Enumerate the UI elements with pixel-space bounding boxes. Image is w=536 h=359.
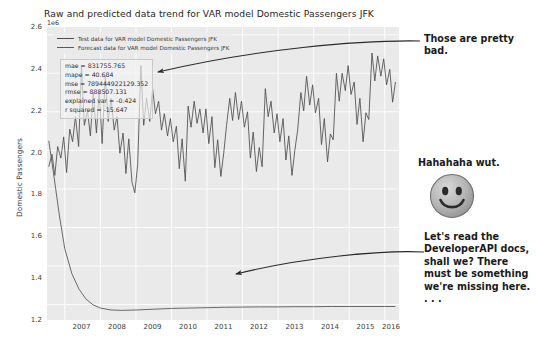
y-tick-2.4: 2.4 xyxy=(31,65,42,73)
annotation-those-are-pretty-bad: Those are pretty bad. xyxy=(424,33,534,58)
x-tick-2012: 2012 xyxy=(250,323,268,331)
chart-legend: Test data for VAR model Domestic Passeng… xyxy=(54,32,232,54)
y-tick-2.6: 2.6 xyxy=(31,23,42,31)
x-tick-2014: 2014 xyxy=(321,323,339,331)
matplotlib-figure: Raw and predicted data trend for VAR mod… xyxy=(0,0,418,359)
y-tick-1.8: 1.8 xyxy=(31,190,42,198)
legend-item-test: Test data for VAR model Domestic Passeng… xyxy=(57,34,229,43)
metric-mae: mae = 831755.765 xyxy=(65,62,148,71)
metric-rmse: rmse = 888507.131 xyxy=(65,88,148,97)
x-tick-2009: 2009 xyxy=(144,323,162,331)
legend-swatch-test xyxy=(57,38,74,39)
metrics-textbox: mae = 831755.765 mape = 40.684 mse = 789… xyxy=(60,59,153,119)
metric-mape: mape = 40.684 xyxy=(65,71,148,80)
x-tick-2007: 2007 xyxy=(73,323,91,331)
metric-explained-var: explained var = -0.424 xyxy=(65,97,148,106)
x-tick-2010: 2010 xyxy=(179,323,197,331)
x-tick-2016: 2016 xyxy=(382,323,400,331)
y-axis-offset-text: 1e6 xyxy=(47,19,59,27)
y-axis-label: Domestic Passengers xyxy=(15,78,24,278)
annotation-hahahaha-wut: Hahahaha wut. xyxy=(418,157,534,169)
y-tick-1.4: 1.4 xyxy=(31,274,42,282)
metric-mse: mse = 789444922129.352 xyxy=(65,80,148,89)
y-tick-1.2: 1.2 xyxy=(31,316,42,324)
y-tick-2.0: 2.0 xyxy=(31,149,42,157)
chart-title: Raw and predicted data trend for VAR mod… xyxy=(0,8,418,19)
smiley-face-icon xyxy=(428,172,476,220)
legend-label-test: Test data for VAR model Domestic Passeng… xyxy=(78,36,217,42)
x-tick-2011: 2011 xyxy=(215,323,233,331)
y-tick-1.6: 1.6 xyxy=(31,232,42,240)
plot-area: Test data for VAR model Domestic Passeng… xyxy=(47,27,399,320)
y-tick-2.2: 2.2 xyxy=(31,107,42,115)
legend-item-forecast: Forecast data for VAR model Domestic Pas… xyxy=(57,43,229,52)
legend-label-forecast: Forecast data for VAR model Domestic Pas… xyxy=(78,45,229,51)
x-tick-2015: 2015 xyxy=(357,323,375,331)
screenshot-root: Raw and predicted data trend for VAR mod… xyxy=(0,0,536,359)
annotation-read-the-docs: Let's read the DeveloperAPI docs, shall … xyxy=(424,231,536,306)
legend-swatch-forecast xyxy=(57,47,74,48)
metric-r-squared: r squared = -15.647 xyxy=(65,106,148,115)
x-tick-2013: 2013 xyxy=(286,323,304,331)
x-tick-2008: 2008 xyxy=(108,323,126,331)
y-axis-tick-labels: 2.6 2.4 2.2 2.0 1.8 1.6 1.4 1.2 Domestic… xyxy=(0,0,47,320)
